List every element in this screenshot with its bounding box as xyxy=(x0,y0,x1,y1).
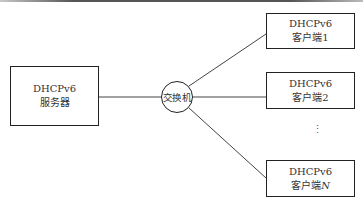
client1-label-line1: DHCPv6 xyxy=(289,17,332,31)
switch-label: 交换机 xyxy=(163,90,192,104)
server-label-line2: 服务器 xyxy=(40,96,70,110)
clientN-label-line2: 客户端N xyxy=(291,179,330,193)
client2-label-line2: 客户端2 xyxy=(292,91,328,105)
dhcpv6-clientN-node: DHCPv6 客户端N xyxy=(266,160,355,197)
clientN-label-line1: DHCPv6 xyxy=(289,165,332,179)
server-label-line1: DHCPv6 xyxy=(33,82,76,96)
client1-label-line2: 客户端1 xyxy=(292,31,328,45)
switch-clientN-link xyxy=(189,108,266,178)
dhcpv6-server-node: DHCPv6 服务器 xyxy=(10,66,99,126)
ellipsis-more-clients: ⋮ xyxy=(312,128,323,132)
client2-label-line1: DHCPv6 xyxy=(289,77,332,91)
dhcpv6-client2-node: DHCPv6 客户端2 xyxy=(266,72,355,109)
switch-node: 交换机 xyxy=(161,81,193,113)
dhcpv6-client1-node: DHCPv6 客户端1 xyxy=(266,13,355,49)
switch-client1-link xyxy=(189,34,266,86)
